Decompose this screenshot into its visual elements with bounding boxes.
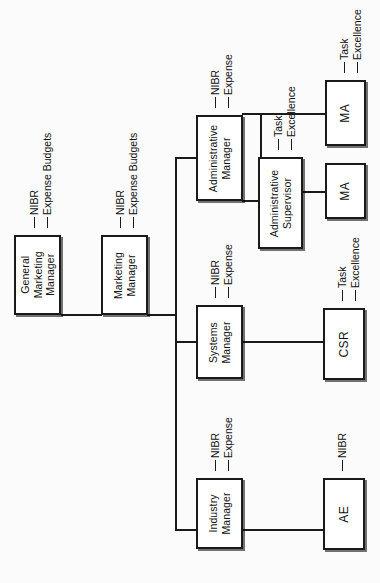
node-industry-manager-label: IndustryManager — [207, 492, 232, 534]
annotation-mm-row2: Expense Budgets — [127, 133, 140, 228]
dash-rule-icon — [133, 217, 134, 228]
dash-rule-icon — [215, 97, 216, 108]
dash-rule-icon — [342, 460, 343, 471]
dash-rule-icon — [342, 290, 343, 301]
node-general-marketing-manager[interactable]: GeneralMarketingManager — [14, 235, 61, 315]
annotation-administrative-manager: NIBR Expense — [209, 54, 235, 108]
node-ma-second-label: MA — [339, 182, 352, 201]
node-systems-manager[interactable]: SystemsManager — [196, 305, 243, 379]
connector-trunk-to-systems-manager — [175, 341, 197, 343]
annotation-gmm-row1: NIBR — [28, 133, 41, 228]
connector-systems-manager-to-csr — [242, 341, 324, 343]
dash-rule-icon — [228, 460, 229, 471]
node-ma-second[interactable]: MA — [325, 163, 366, 219]
annotation-admin-sup-row1: Task — [272, 86, 285, 150]
annotation-industry-mgr-row1: NIBR — [209, 417, 222, 471]
connector-industry-manager-to-ae — [242, 529, 324, 531]
annotation-ma-top-row1: Task — [338, 9, 351, 73]
dash-rule-icon — [291, 139, 292, 150]
annotation-mm-row1: NIBR — [114, 133, 127, 228]
dash-rule-icon — [278, 139, 279, 150]
connector-admin-supervisor-to-ma — [302, 191, 326, 193]
dash-rule-icon — [47, 217, 48, 228]
connector-mm-to-trunk — [147, 314, 177, 316]
node-systems-manager-label: SystemsManager — [207, 321, 232, 363]
node-ma-top[interactable]: MA — [325, 80, 366, 146]
connector-admin-manager-to-ma — [242, 113, 262, 115]
connector-trunk-to-admin-manager — [175, 157, 197, 159]
annotation-ae: NIBR — [336, 433, 349, 471]
dash-rule-icon — [355, 290, 356, 301]
node-ae-label: AE — [338, 506, 351, 523]
annotation-marketing-manager: NIBR Expense Budgets — [114, 133, 140, 228]
dash-rule-icon — [344, 62, 345, 73]
dash-rule-icon — [120, 217, 121, 228]
connector-trunk-to-industry-manager — [175, 529, 197, 531]
node-csr-label: CSR — [338, 331, 351, 358]
annotation-admin-sup-row2: Excellence — [285, 86, 298, 150]
annotation-gmm-row2: Expense Budgets — [41, 133, 54, 228]
dash-rule-icon — [215, 460, 216, 471]
annotation-admin-mgr-row1: NIBR — [209, 54, 222, 108]
annotation-administrative-supervisor: Task Excellence — [272, 86, 298, 150]
node-ae[interactable]: AE — [323, 478, 365, 550]
dash-rule-icon — [228, 97, 229, 108]
connector-gmm-to-mm — [61, 314, 102, 316]
node-marketing-manager[interactable]: MarketingManager — [101, 235, 148, 315]
node-administrative-supervisor[interactable]: AdministrativeSupervisor — [258, 157, 303, 249]
annotation-systems-manager: NIBR Expense — [209, 244, 235, 298]
annotation-csr-row2: Excellence — [349, 237, 362, 301]
annotation-ma-top: Task Excellence — [338, 9, 364, 73]
dash-rule-icon — [357, 62, 358, 73]
node-administrative-manager[interactable]: AdministrativeManager — [196, 115, 243, 201]
node-industry-manager[interactable]: IndustryManager — [196, 478, 243, 549]
annotation-ma-top-row2: Excellence — [351, 9, 364, 73]
annotation-industry-manager: NIBR Expense — [209, 417, 235, 471]
node-general-marketing-manager-label: GeneralMarketingManager — [19, 251, 57, 298]
connector-trunk-vertical — [175, 157, 177, 531]
annotation-csr-row1: Task — [336, 237, 349, 301]
node-ma-top-label: MA — [339, 104, 352, 123]
annotation-industry-mgr-row2: Expense — [222, 417, 235, 471]
annotation-systems-mgr-row2: Expense — [222, 244, 235, 298]
annotation-ae-row1: NIBR — [336, 433, 349, 471]
dash-rule-icon — [34, 217, 35, 228]
annotation-general-marketing-manager: NIBR Expense Budgets — [28, 133, 54, 228]
org-chart-canvas: GeneralMarketingManager MarketingManager… — [0, 0, 380, 583]
annotation-csr: Task Excellence — [336, 237, 362, 301]
annotation-systems-mgr-row1: NIBR — [209, 244, 222, 298]
node-administrative-supervisor-label: AdministrativeSupervisor — [268, 169, 293, 236]
node-csr[interactable]: CSR — [323, 308, 365, 380]
node-marketing-manager-label: MarketingManager — [112, 251, 137, 298]
dash-rule-icon — [215, 287, 216, 298]
annotation-admin-mgr-row2: Expense — [222, 54, 235, 108]
node-administrative-manager-label: AdministrativeManager — [207, 124, 232, 191]
dash-rule-icon — [228, 287, 229, 298]
